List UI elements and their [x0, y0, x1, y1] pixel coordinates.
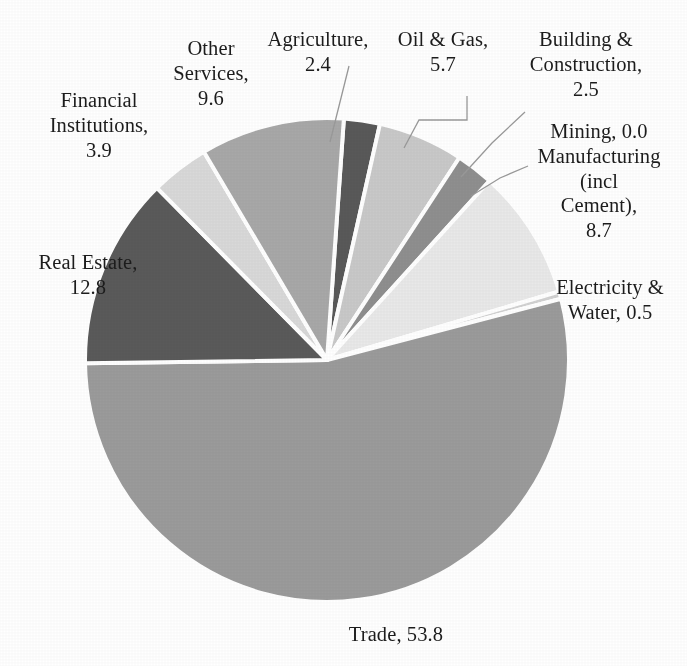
- pie-label-financial-institutions: Financial Institutions, 3.9: [22, 88, 176, 162]
- pie-label-trade: Trade, 53.8: [316, 622, 476, 647]
- pie-label-building-construction: Building & Construction, 2.5: [512, 27, 660, 101]
- pie-label-electricity-water: Electricity & Water, 0.5: [536, 275, 684, 325]
- pie-slices-group: [85, 118, 569, 602]
- pie-label-mining-manufacturing: Mining, 0.0 Manufacturing (incl Cement),…: [516, 119, 682, 243]
- pie-chart: Agriculture, 2.4 Oil & Gas, 5.7 Building…: [0, 0, 687, 666]
- pie-label-real-estate: Real Estate, 12.8: [13, 250, 163, 300]
- pie-label-oil-gas: Oil & Gas, 5.7: [383, 27, 503, 77]
